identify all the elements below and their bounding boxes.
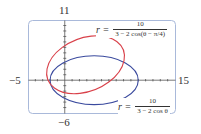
blue-equation-label: r = 10 3 − 2 cos θ [118, 98, 170, 115]
x-max-label: 15 [178, 75, 189, 86]
y-min-label: −6 [58, 117, 70, 128]
x-min-label: −5 [9, 75, 21, 86]
red-equation-denominator: 3 − 2 cos(θ − π/4) [113, 29, 167, 38]
red-equation-fraction: 10 3 − 2 cos(θ − π/4) [113, 21, 167, 38]
red-equation-label: r = 10 3 − 2 cos(θ − π/4) [96, 21, 167, 38]
blue-equation-fraction: 10 3 − 2 cos θ [135, 98, 170, 115]
blue-equation-lhs: r = [118, 102, 131, 112]
y-max-label: 11 [59, 5, 70, 16]
blue-equation-denominator: 3 − 2 cos θ [135, 106, 170, 115]
red-equation-lhs: r = [96, 25, 109, 35]
red-equation-numerator: 10 [135, 21, 146, 29]
blue-equation-numerator: 10 [147, 98, 158, 106]
